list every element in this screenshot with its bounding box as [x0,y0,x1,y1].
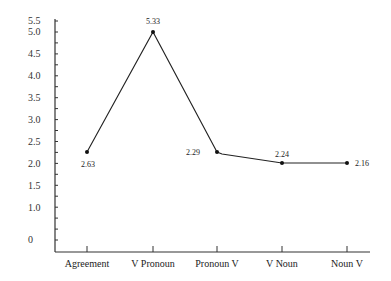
data-point [345,161,349,165]
data-point [85,150,89,154]
line-chart: 01.01.52.02.53.03.54.04.55.05.5 Agreemen… [0,0,391,281]
y-axis-ticks [55,21,58,240]
data-points [85,30,349,165]
y-tick-label: 5.5 [28,15,41,26]
y-tick-label: 1.0 [28,202,41,213]
data-point [280,161,284,165]
data-labels: 2.635.332.292.242.16 [81,17,369,169]
series-line [87,32,347,163]
data-point [151,30,155,34]
x-category-label: V Pronoun [131,258,174,269]
y-tick-label: 5.0 [28,26,41,37]
data-label: 2.63 [81,160,95,169]
data-label: 2.29 [186,148,200,157]
x-category-label: Noun V [331,258,364,269]
x-category-label: V Noun [266,258,298,269]
x-category-label: Agreement [65,258,110,269]
x-category-label: Pronoun V [195,258,239,269]
data-label: 2.24 [275,150,289,159]
y-tick-label: 3.5 [28,92,41,103]
data-label: 5.33 [146,17,160,26]
y-tick-label: 4.0 [28,70,41,81]
y-axis-tick-labels: 01.01.52.02.53.03.54.04.55.05.5 [28,15,41,245]
y-tick-label: 0 [28,234,33,245]
y-tick-label: 4.5 [28,48,41,59]
data-label: 2.16 [355,159,369,168]
y-tick-label: 3.0 [28,114,41,125]
y-tick-label: 2.5 [28,136,41,147]
data-point [215,150,219,154]
y-tick-label: 1.5 [28,180,41,191]
x-axis-ticks [87,246,347,252]
y-tick-label: 2.0 [28,158,41,169]
x-axis-category-labels: AgreementV PronounPronoun VV NounNoun V [65,258,364,269]
